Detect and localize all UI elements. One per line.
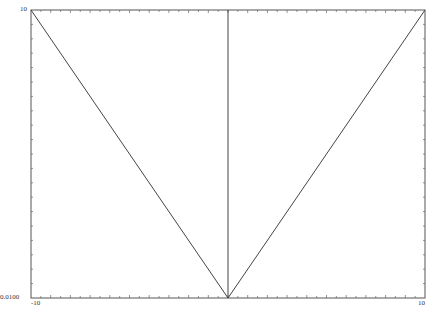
x-axis-left-label: -10 xyxy=(31,299,40,307)
x-axis-right-label: 10 xyxy=(418,299,425,307)
y-axis-top-label: 10 xyxy=(20,5,27,13)
y-axis-bottom-label: 0.0100 xyxy=(0,293,19,301)
plot-area xyxy=(0,0,435,313)
